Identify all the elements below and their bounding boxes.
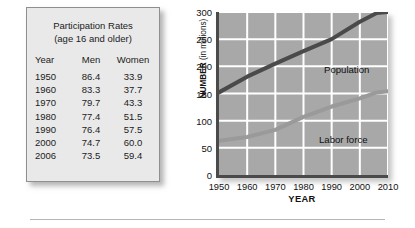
line-chart: NUMBER (in millions) 050100150200250300 … xyxy=(186,6,401,206)
column-header-women: Women xyxy=(111,54,155,71)
x-tick-label: 1990 xyxy=(321,182,342,192)
cell-men: 79.7 xyxy=(71,97,111,110)
cell-men: 83.3 xyxy=(71,84,111,97)
table-row: 1980 77.4 51.5 xyxy=(31,111,155,124)
cell-men: 77.4 xyxy=(71,111,111,124)
cell-women: 57.5 xyxy=(111,124,155,137)
table-header-row: Year Men Women xyxy=(31,54,155,71)
cell-men: 76.4 xyxy=(71,124,111,137)
series-label-population: Population xyxy=(324,64,369,75)
cell-year: 1970 xyxy=(31,97,71,110)
table-title: Participation Rates (age 16 and older) xyxy=(27,20,159,45)
participation-rates-panel: Participation Rates (age 16 and older) Y… xyxy=(26,7,160,182)
cell-women: 33.9 xyxy=(111,71,155,84)
column-header-men: Men xyxy=(71,54,111,71)
gridlines xyxy=(219,12,388,175)
participation-rates-table: Year Men Women 1950 86.4 33.9 1960 83.3 … xyxy=(31,54,155,163)
cell-women: 59.4 xyxy=(111,150,155,163)
y-tick-label: 150 xyxy=(196,88,212,99)
column-header-year: Year xyxy=(31,54,71,71)
series-label-labor-force: Labor force xyxy=(319,134,368,145)
cell-year: 1990 xyxy=(31,124,71,137)
cell-year: 2000 xyxy=(31,137,71,150)
x-tick-label: 1950 xyxy=(209,182,230,192)
table-row: 2000 74.7 60.0 xyxy=(31,137,155,150)
plot-area: Population Labor force xyxy=(216,12,388,178)
cell-year: 1960 xyxy=(31,84,71,97)
x-tick-label: 1980 xyxy=(293,182,314,192)
table-row: 1990 76.4 57.5 xyxy=(31,124,155,137)
table-row: 2006 73.5 59.4 xyxy=(31,150,155,163)
cell-men: 86.4 xyxy=(71,71,111,84)
cell-women: 60.0 xyxy=(111,137,155,150)
table-title-line2: (age 16 and older) xyxy=(27,33,159,46)
table-row: 1960 83.3 37.7 xyxy=(31,84,155,97)
table-row: 1970 79.7 43.3 xyxy=(31,97,155,110)
cell-year: 2006 xyxy=(31,150,71,163)
y-tick-label: 200 xyxy=(196,61,212,72)
y-tick-label: 250 xyxy=(196,34,212,45)
bottom-divider xyxy=(30,219,385,220)
y-tick-label: 50 xyxy=(201,142,212,153)
cell-women: 37.7 xyxy=(111,84,155,97)
x-tick-label: 1970 xyxy=(265,182,286,192)
x-tick-label: 2010 xyxy=(378,182,399,192)
figure-container: Participation Rates (age 16 and older) Y… xyxy=(0,0,415,228)
y-axis-tick-labels: 050100150200250300 xyxy=(186,6,212,178)
table-row: 1950 86.4 33.9 xyxy=(31,71,155,84)
cell-women: 43.3 xyxy=(111,97,155,110)
x-tick-label: 1960 xyxy=(237,182,258,192)
y-tick-label: 0 xyxy=(207,170,212,181)
y-tick-label: 100 xyxy=(196,115,212,126)
plot-svg xyxy=(219,12,388,175)
cell-year: 1980 xyxy=(31,111,71,124)
table-title-line1: Participation Rates xyxy=(27,20,159,33)
cell-men: 74.7 xyxy=(71,137,111,150)
x-tick-label: 2000 xyxy=(349,182,370,192)
cell-year: 1950 xyxy=(31,71,71,84)
cell-women: 51.5 xyxy=(111,111,155,124)
y-tick-label: 300 xyxy=(196,7,212,18)
x-axis-title: YEAR xyxy=(216,194,388,204)
cell-men: 73.5 xyxy=(71,150,111,163)
